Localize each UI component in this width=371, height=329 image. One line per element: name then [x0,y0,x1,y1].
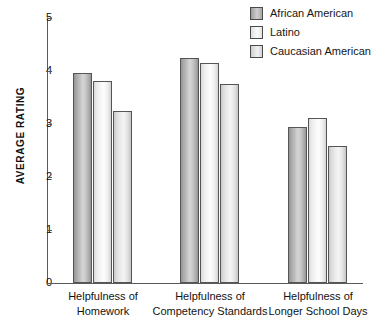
plot-area [48,18,363,283]
category-label-line: Homework [43,304,163,319]
category-label-line: Helpfulness of [43,289,163,304]
bar [113,111,132,283]
x-axis-category-labels: Helpfulness ofHomeworkHelpfulness ofComp… [48,289,363,325]
bar [93,81,112,283]
bar [308,118,327,283]
bar-group [73,18,132,283]
category-label: Helpfulness ofLonger School Days [258,289,371,319]
category-label-line: Competency Standards [150,304,270,319]
x-axis-line [47,283,363,284]
category-label-line: Longer School Days [258,304,371,319]
bar-chart: African American Latino Caucasian Americ… [0,0,371,329]
bar [73,73,92,283]
bar [328,146,347,283]
category-label: Helpfulness ofHomework [43,289,163,319]
bar [180,58,199,283]
bar [220,84,239,283]
category-label-line: Helpfulness of [150,289,270,304]
y-axis-title: AVERAGE RATING [15,71,26,201]
bar [288,127,307,283]
category-label-line: Helpfulness of [258,289,371,304]
category-label: Helpfulness ofCompetency Standards [150,289,270,319]
bar [200,63,219,283]
bar-group [180,18,239,283]
bar-group [288,18,347,283]
y-tick-mark [47,283,52,284]
